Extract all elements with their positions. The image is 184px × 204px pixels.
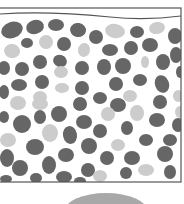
dark-pebble: [26, 139, 44, 155]
dark-pebble: [56, 171, 72, 183]
dark-pebble: [48, 19, 64, 31]
dark-pebble: [34, 110, 46, 124]
dark-pebble: [120, 167, 132, 179]
dark-pebble: [97, 59, 111, 75]
light-pebble: [138, 164, 154, 176]
dark-pebble: [89, 30, 103, 44]
dark-pebble: [109, 77, 123, 91]
dark-pebble: [57, 37, 71, 51]
dark-pebble: [164, 165, 176, 179]
dark-pebble: [168, 28, 182, 44]
dark-pebble: [156, 54, 170, 70]
dark-pebble: [124, 151, 140, 165]
dark-pebble: [153, 95, 167, 109]
dark-pebble: [100, 151, 114, 165]
dark-pebble: [75, 61, 89, 75]
dark-pebble: [93, 92, 107, 104]
light-pebble: [141, 56, 149, 68]
dark-pebble: [51, 106, 67, 122]
dark-pebble: [21, 38, 33, 48]
light-pebble: [123, 90, 137, 102]
dark-pebble: [13, 115, 31, 133]
dark-pebble: [130, 26, 144, 38]
dark-pebble: [142, 38, 158, 52]
dark-pebble: [33, 55, 47, 69]
light-pebble: [54, 66, 68, 78]
light-pebble: [111, 139, 125, 151]
dark-pebble: [15, 62, 29, 76]
dark-pebble: [11, 79, 27, 91]
light-pebble: [0, 133, 16, 147]
dark-pebble: [58, 148, 74, 162]
dark-pebble: [102, 44, 118, 56]
light-pebble: [42, 124, 58, 142]
light-pebble: [32, 98, 48, 110]
dark-pebble: [81, 138, 97, 154]
dark-pebble: [115, 58, 131, 74]
dark-pebble: [170, 47, 182, 63]
dark-pebble: [81, 163, 95, 177]
dark-pebble: [73, 97, 87, 111]
dark-pebble: [0, 149, 14, 167]
dark-pebble: [124, 41, 138, 55]
light-pebble: [101, 107, 115, 121]
dark-pebble: [35, 75, 49, 89]
dark-pebble: [121, 121, 133, 135]
light-pebble: [93, 170, 107, 182]
dark-pebble: [157, 146, 173, 162]
pebble-diagram: [0, 0, 184, 204]
dark-pebble: [75, 81, 89, 95]
dark-pebble: [42, 156, 56, 174]
light-pebble: [130, 105, 144, 121]
dark-pebble: [93, 124, 107, 138]
dark-pebble: [133, 74, 147, 86]
light-pebble: [55, 83, 69, 93]
dark-pebble: [76, 115, 92, 129]
dark-pebble: [163, 134, 177, 146]
light-pebble: [10, 96, 26, 110]
dark-pebble: [12, 160, 28, 176]
dark-pebble: [139, 134, 153, 146]
dark-pebble: [149, 113, 165, 127]
